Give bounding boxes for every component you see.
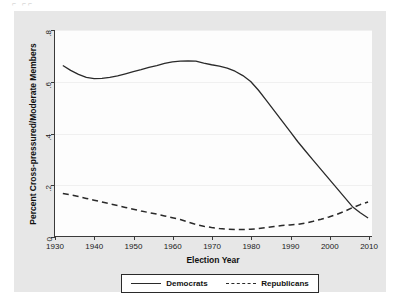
- chart-legend: Democrats Republicans: [121, 274, 319, 293]
- scan-artifact-strip: ⌐ ⌐⌐: [0, 0, 400, 8]
- plot-area: 0.2.4.6.8 193019401950196019701980199020…: [55, 30, 372, 236]
- x-tick-mark: [173, 236, 174, 240]
- series-layer: [55, 30, 372, 236]
- x-tick-label: 1930: [46, 242, 64, 251]
- x-tick-mark: [55, 236, 56, 240]
- y-tick-label: 0: [45, 237, 54, 241]
- x-tick-label: 1970: [203, 242, 221, 251]
- y-axis-title: Percent Cross-pressured/Moderate Members: [27, 30, 39, 237]
- x-tick-label: 2000: [321, 242, 339, 251]
- chart-screenshot: ⌐ ⌐⌐ Percent Cross-pressured/Moderate Me…: [0, 0, 400, 304]
- x-tick-label: 1980: [242, 242, 260, 251]
- x-axis-title: Election Year: [54, 255, 372, 265]
- x-tick-label: 1960: [164, 242, 182, 251]
- y-tick-label: .6: [45, 82, 54, 89]
- y-tick-label: .2: [45, 185, 54, 192]
- legend-label-republicans: Republicans: [261, 279, 309, 288]
- legend-label-democrats: Democrats: [166, 279, 207, 288]
- x-tick-mark: [251, 236, 252, 240]
- series-line-democrats: [63, 61, 368, 218]
- legend-item-democrats: Democrats: [131, 279, 207, 288]
- plot-frame: 0.2.4.6.8 193019401950196019701980199020…: [54, 30, 372, 237]
- x-tick-mark: [134, 236, 135, 240]
- y-tick-label: .8: [45, 30, 54, 37]
- x-tick-mark: [330, 236, 331, 240]
- y-axis-title-text: Percent Cross-pressured/Moderate Members: [28, 43, 38, 224]
- series-line-republicans: [63, 194, 368, 230]
- y-tick-label: .4: [45, 134, 54, 141]
- x-tick-label: 2010: [360, 242, 378, 251]
- x-tick-mark: [291, 236, 292, 240]
- x-tick-mark: [212, 236, 213, 240]
- x-tick-mark: [94, 236, 95, 240]
- x-tick-label: 1940: [85, 242, 103, 251]
- legend-item-republicans: Republicans: [226, 279, 309, 288]
- legend-line-solid-icon: [131, 280, 161, 288]
- x-tick-mark: [369, 236, 370, 240]
- x-tick-label: 1950: [125, 242, 143, 251]
- figure-panel: Percent Cross-pressured/Moderate Members…: [14, 11, 386, 292]
- legend-line-dashed-icon: [226, 280, 256, 288]
- x-tick-label: 1990: [282, 242, 300, 251]
